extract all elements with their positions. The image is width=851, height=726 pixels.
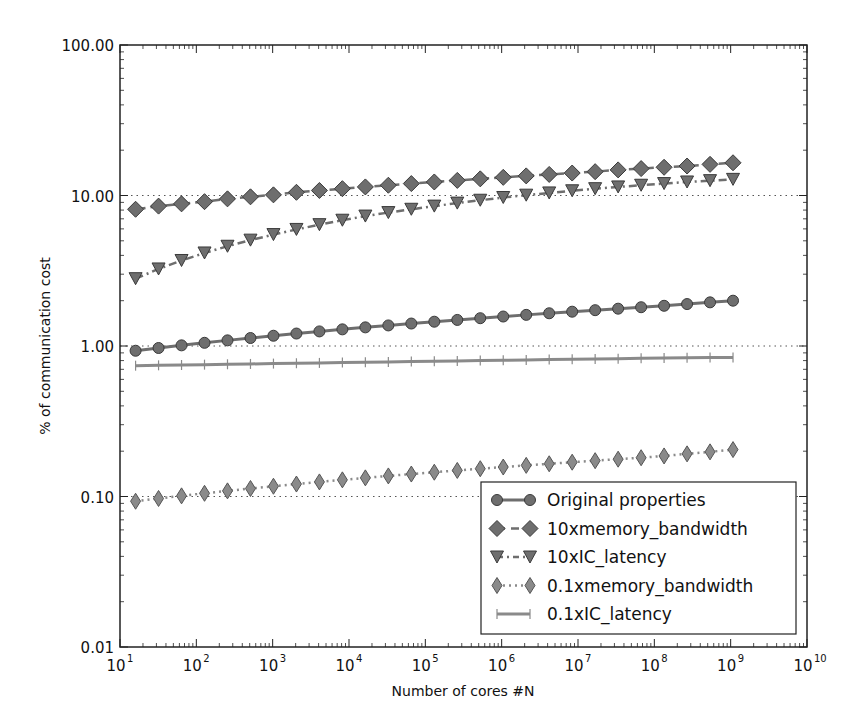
x-tick-label: 10: [412, 657, 431, 675]
y-tick-labels: 0.010.101.0010.00100.00: [62, 37, 115, 657]
legend-label: Original properties: [547, 490, 706, 510]
legend-label: 0.1xmemory_bandwidth: [547, 576, 753, 597]
x-axis-label: Number of cores #N: [392, 683, 535, 699]
chart: 0.010.101.0010.00100.00 1011021031041051…: [0, 0, 851, 726]
series-layer: [128, 155, 741, 509]
legend-label: 0.1xIC_latency: [547, 604, 672, 625]
y-tick-label: 0.10: [81, 489, 114, 507]
y-tick-label: 1.00: [81, 338, 114, 356]
x-tick-exponent: 7: [585, 653, 591, 664]
x-tick-label: 10: [564, 657, 583, 675]
x-tick-labels: 1011021031041051061071081091010: [106, 653, 826, 675]
y-tick-label: 100.00: [62, 37, 115, 55]
legend: Original properties10xmemory_bandwidth10…: [481, 482, 796, 634]
x-tick-label: 10: [106, 657, 125, 675]
x-tick-exponent: 6: [509, 653, 515, 664]
x-tick-exponent: 10: [814, 653, 827, 664]
y-axis-label: % of communication cost: [37, 257, 53, 435]
x-tick-exponent: 1: [127, 653, 133, 664]
x-tick-label: 10: [335, 657, 354, 675]
series-0-1xic-latency: [136, 352, 733, 370]
x-tick-label: 10: [793, 657, 812, 675]
legend-label: 10xmemory_bandwidth: [547, 519, 748, 540]
legend-label: 10xIC_latency: [547, 547, 667, 568]
x-tick-exponent: 5: [432, 653, 438, 664]
x-tick-exponent: 2: [203, 653, 209, 664]
series-original-properties: [130, 295, 738, 356]
y-tick-label: 0.01: [81, 639, 114, 657]
x-tick-exponent: 8: [661, 653, 667, 664]
y-tick-label: 10.00: [71, 188, 114, 206]
x-tick-label: 10: [488, 657, 507, 675]
x-tick-label: 10: [259, 657, 278, 675]
x-tick-label: 10: [717, 657, 736, 675]
x-tick-label: 10: [641, 657, 660, 675]
x-tick-exponent: 3: [280, 653, 286, 664]
x-tick-exponent: 4: [356, 653, 362, 664]
x-tick-exponent: 9: [738, 653, 744, 664]
x-tick-label: 10: [183, 657, 202, 675]
